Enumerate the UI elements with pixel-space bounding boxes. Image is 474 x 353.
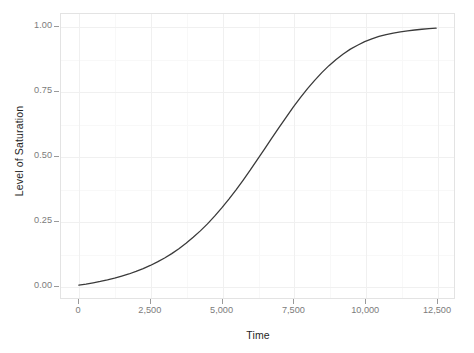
x-axis-tick-mark	[78, 299, 79, 304]
x-axis-title: Time	[60, 329, 456, 341]
x-axis-tick-label: 12,500	[423, 306, 451, 315]
x-axis-tick-mark	[365, 299, 366, 304]
plot-panel	[60, 13, 455, 299]
x-axis-tick-mark	[293, 299, 294, 304]
x-axis-tick-mark	[222, 299, 223, 304]
x-axis-tick-label: 10,000	[351, 306, 379, 315]
chart-root: Level of Saturation 0.000.250.500.751.00…	[0, 0, 474, 353]
series-line-saturation	[61, 14, 454, 298]
x-axis-tick-label: 7,500	[282, 306, 305, 315]
x-axis-tick-label: 0	[75, 306, 80, 315]
x-axis-tick-mark	[437, 299, 438, 304]
x-axis-tick-label: 2,500	[138, 306, 161, 315]
x-axis-tick-mark	[150, 299, 151, 304]
x-axis-tick-label: 5,000	[210, 306, 233, 315]
